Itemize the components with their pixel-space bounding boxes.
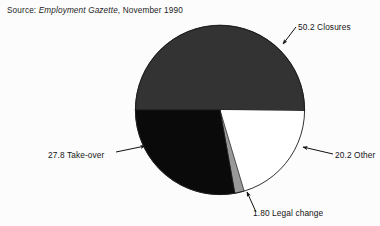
leader-other — [303, 147, 333, 154]
pie-svg — [135, 25, 305, 195]
source-note-suffix: , November 1990 — [118, 6, 183, 15]
slice-label-legal-change: 1.80 Legal change — [253, 208, 323, 218]
pie-graphic — [135, 25, 305, 195]
slice-label-closures: 50.2 Closures — [298, 22, 351, 32]
pie-chart-figure: Source: Employment Gazette, November 199… — [0, 0, 380, 226]
slice-label-other: 20.2 Other — [335, 150, 375, 160]
pie-slice-group — [135, 25, 304, 194]
pie-slice-take-over — [135, 110, 234, 195]
source-note-publication: Employment Gazette — [39, 6, 118, 15]
pie-slice-closures — [135, 25, 304, 111]
source-note: Source: Employment Gazette, November 199… — [7, 6, 183, 15]
slice-label-takeover: 27.8 Take-over — [48, 150, 104, 160]
source-note-prefix: Source: — [7, 6, 39, 15]
